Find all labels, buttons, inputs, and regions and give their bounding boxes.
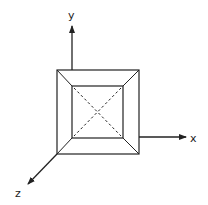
- y-axis-label: y: [68, 9, 75, 22]
- axes-diagram: y x z: [0, 0, 208, 205]
- z-axis: [28, 154, 57, 184]
- hidden-diagonals: [74, 88, 121, 136]
- inner-square: [72, 86, 123, 138]
- z-axis-label: z: [15, 187, 21, 200]
- x-axis-label: x: [190, 132, 197, 145]
- corner-edges: [57, 70, 139, 154]
